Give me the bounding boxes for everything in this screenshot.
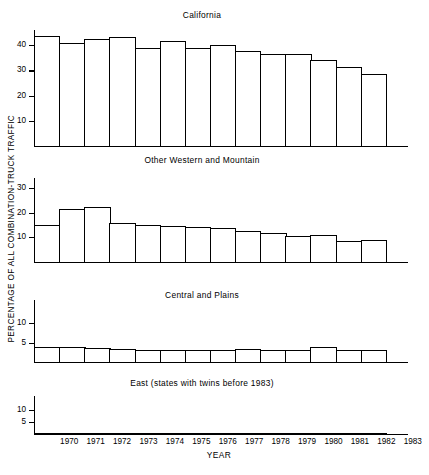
chart-panel: East (states with twins before 1983)510 [0,378,410,438]
bar [235,231,261,262]
bar-series [34,396,404,434]
y-axis-tick-label: 40 [0,40,26,49]
bar [185,48,211,146]
x-axis-tick-label: 1983 [396,437,429,446]
bar [310,235,336,262]
bar [59,209,85,262]
bar-series [34,30,404,146]
bar [210,350,236,362]
bar [260,433,286,434]
bar [210,433,236,434]
bar [361,74,387,146]
bar [185,433,211,434]
bar [34,433,60,434]
bar [109,223,135,262]
bar [235,349,261,362]
bar [59,43,85,146]
bar [285,433,311,434]
bar [361,433,387,434]
bar [285,350,311,362]
bar-series [34,178,404,262]
x-axis-line [34,362,408,363]
bar-series [34,300,404,362]
figure-canvas: PERCENTAGE OF ALL COMBINATION-TRUCK TRAF… [0,0,429,475]
bar [235,51,261,146]
bar [59,433,85,434]
panel-title: California [0,10,404,20]
y-axis-tick-label: 30 [0,65,26,74]
bar [84,348,110,362]
bar [336,433,362,434]
bar [135,48,161,146]
y-axis-tick-label: 10 [0,405,26,414]
bar [285,236,311,262]
panel-title: Other Western and Mountain [0,155,404,165]
bar [310,433,336,434]
bar [310,347,336,362]
bar [361,350,387,362]
y-axis-tick-label: 10 [0,232,26,241]
bar [135,433,161,434]
x-axis-line [34,434,408,435]
bar [260,233,286,262]
y-axis-tick-label: 10 [0,318,26,327]
y-axis-tick-label: 20 [0,91,26,100]
bar [84,433,110,434]
panel-title: East (states with twins before 1983) [0,378,404,388]
bar [84,207,110,262]
bar [185,350,211,362]
bar [34,347,60,362]
y-axis-tick-label: 5 [0,338,26,347]
y-axis-tick-label: 20 [0,208,26,217]
bar [235,433,261,434]
bar [336,241,362,262]
bar [84,39,110,146]
bar [336,67,362,146]
bar [109,433,135,434]
bar [135,350,161,362]
bar [336,350,362,362]
bar [285,54,311,146]
y-axis-tick-label: 10 [0,116,26,125]
chart-panel: California10203040 [0,10,410,150]
x-axis-line [34,146,408,147]
bar [310,60,336,146]
panel-title: Central and Plains [0,290,404,300]
bar [160,350,186,362]
bar [260,350,286,362]
bar [109,349,135,362]
chart-panel: Other Western and Mountain102030 [0,155,410,266]
bar [210,45,236,146]
bar [135,225,161,262]
y-axis-tick-label: 5 [0,417,26,426]
bar [109,37,135,146]
x-axis-line [34,262,408,263]
bar [210,228,236,262]
chart-panel: Central and Plains510 [0,290,410,366]
bar [160,41,186,146]
bar [34,225,60,262]
bar [361,240,387,262]
x-axis-title: YEAR [34,450,404,460]
bar [160,433,186,434]
bar [260,54,286,146]
bar [34,36,60,146]
bar [185,227,211,262]
bar [59,347,85,362]
bar [160,226,186,262]
y-axis-tick-label: 30 [0,183,26,192]
